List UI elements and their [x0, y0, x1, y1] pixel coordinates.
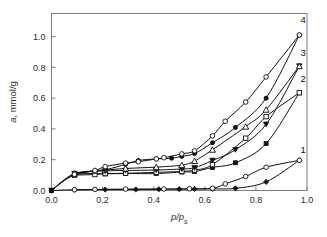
- data-point-4-desorption: [210, 134, 215, 139]
- data-point-4-desorption: [103, 164, 108, 169]
- data-point-1-adsorption: [133, 187, 138, 192]
- y-tick-label: 0.0: [33, 186, 46, 196]
- y-tick-label: 0.4: [33, 124, 46, 134]
- data-point-1-desorption: [297, 158, 302, 163]
- data-point-4-desorption: [264, 75, 269, 80]
- y-tick-label: 0.2: [33, 155, 46, 165]
- curve-line-2-adsorption: [52, 93, 300, 191]
- data-point-4-desorption: [123, 161, 128, 166]
- plot-frame: [52, 14, 308, 191]
- curve-label-2: 2: [301, 73, 306, 84]
- data-point-4-adsorption: [210, 141, 214, 145]
- curve-label-3: 3: [301, 47, 306, 58]
- y-axis-title: a, mmol/g: [7, 81, 18, 123]
- data-point-4-desorption: [154, 157, 159, 162]
- data-point-1-adsorption: [103, 187, 108, 192]
- data-point-1-desorption: [93, 187, 98, 192]
- data-point-4-desorption: [223, 119, 228, 124]
- y-tick-label: 0.8: [33, 63, 46, 73]
- data-point-2-desorption: [264, 114, 268, 118]
- curve-label-4: 4: [301, 14, 306, 25]
- data-point-3-desorption: [209, 147, 215, 152]
- x-tick-label: 0.4: [147, 195, 160, 205]
- data-point-4-adsorption: [264, 96, 268, 100]
- data-point-1-adsorption: [264, 179, 269, 184]
- data-point-3-adsorption: [233, 147, 238, 152]
- data-point-4-adsorption: [233, 125, 237, 129]
- x-tick-label: 0.8: [250, 195, 263, 205]
- data-point-1-desorption: [223, 182, 228, 187]
- curve-label-1: 1: [301, 144, 306, 155]
- data-point-4-desorption: [180, 152, 185, 157]
- y-tick-label: 0.6: [33, 93, 46, 103]
- x-tick-label: 0.0: [45, 195, 58, 205]
- figure-container: 0.00.20.40.60.81.00.00.20.40.60.81.0 p/p…: [0, 0, 327, 237]
- data-point-4-desorption: [72, 172, 77, 177]
- data-point-4-adsorption: [49, 188, 53, 192]
- curves-layer: [52, 35, 300, 190]
- x-tick-label: 0.2: [96, 195, 109, 205]
- data-point-4-adsorption: [169, 156, 173, 160]
- data-point-1-desorption: [72, 187, 77, 192]
- data-point-4-desorption: [93, 168, 98, 173]
- y-tick-label: 1.0: [33, 32, 46, 42]
- data-point-1-desorption: [123, 187, 128, 192]
- data-point-1-desorption: [187, 187, 192, 192]
- x-tick-label: 0.6: [199, 195, 212, 205]
- data-point-1-desorption: [162, 187, 167, 192]
- curve-line-3-desorption: [75, 66, 300, 173]
- curve-line-4-desorption: [75, 35, 300, 174]
- data-point-2-adsorption: [233, 161, 237, 165]
- data-point-1-adsorption: [156, 187, 161, 192]
- data-point-4-desorption: [192, 148, 197, 153]
- curve-line-2-desorption: [75, 93, 300, 175]
- x-tick-label: 1.0: [301, 195, 314, 205]
- data-point-4-desorption: [136, 159, 141, 164]
- data-point-2-adsorption: [264, 142, 268, 146]
- curve-line-1-adsorption: [52, 160, 300, 190]
- data-point-4-desorption: [243, 100, 248, 105]
- data-point-1-desorption: [210, 186, 215, 191]
- data-point-1-desorption: [264, 165, 269, 170]
- data-point-1-desorption: [243, 174, 248, 179]
- data-point-2-desorption: [297, 91, 301, 95]
- data-point-4-desorption: [297, 33, 302, 38]
- curve-line-4-adsorption: [52, 35, 300, 190]
- data-point-4-desorption: [162, 155, 167, 160]
- data-point-2-desorption: [243, 136, 247, 140]
- isotherm-chart: 0.00.20.40.60.81.00.00.20.40.60.81.0 p/p…: [0, 0, 327, 237]
- x-axis-title: p/ps: [170, 211, 188, 225]
- data-point-3-desorption: [192, 158, 198, 163]
